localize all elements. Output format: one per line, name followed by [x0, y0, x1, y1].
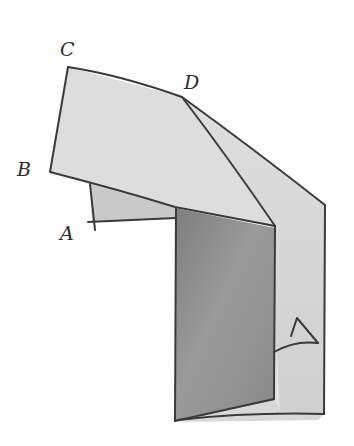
- label-a: A: [60, 224, 74, 243]
- label-b: B: [17, 160, 31, 179]
- label-d: D: [184, 73, 199, 92]
- edge-front-left: [175, 208, 176, 421]
- folded-strip-sketch: [0, 0, 354, 446]
- front-panel-dark: [175, 208, 275, 421]
- label-c: C: [60, 40, 75, 59]
- edge-fold-vertical: [274, 226, 275, 399]
- edge-right-outer: [324, 205, 325, 414]
